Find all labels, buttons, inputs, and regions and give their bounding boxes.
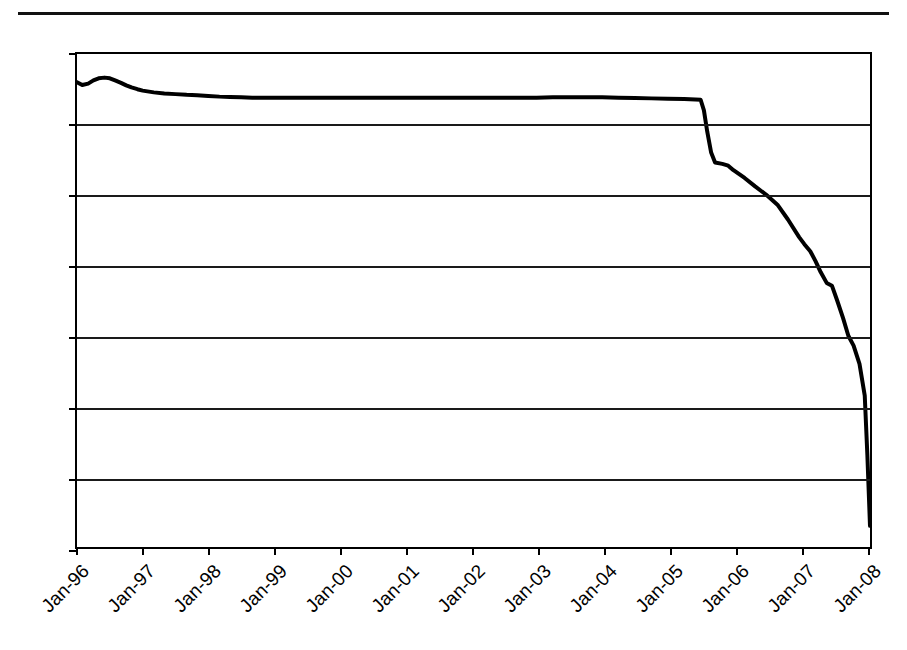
x-axis-tick [604, 547, 606, 555]
x-axis-tick [802, 547, 804, 555]
x-axis-tick [538, 547, 540, 555]
x-axis-tick-label: Jan-96 [25, 561, 92, 628]
gridline-horizontal [77, 337, 870, 339]
y-axis-tick [69, 124, 77, 126]
y-axis-tick [69, 266, 77, 268]
gridline-horizontal [77, 195, 870, 197]
y-axis-tick [69, 479, 77, 481]
data-series-line [77, 54, 870, 547]
plot-area [75, 52, 872, 549]
x-axis-tick-label: Jan-04 [553, 561, 620, 628]
gridline-horizontal [77, 479, 870, 481]
x-axis-tick [736, 547, 738, 555]
x-axis-tick [142, 547, 144, 555]
gridline-horizontal [77, 124, 870, 126]
series-polyline [77, 78, 870, 526]
y-axis-tick [69, 408, 77, 410]
x-axis-tick-label: Jan-07 [751, 561, 818, 628]
gridline-horizontal [77, 408, 870, 410]
y-axis-tick [69, 53, 77, 55]
x-axis-tick-label: Jan-98 [157, 561, 224, 628]
y-axis-tick [69, 195, 77, 197]
x-axis-tick [406, 547, 408, 555]
x-axis-tick-label: Jan-08 [817, 561, 884, 628]
x-axis-tick [340, 547, 342, 555]
x-axis-tick [76, 547, 78, 555]
x-axis-tick-label: Jan-01 [355, 561, 422, 628]
x-axis-tick [274, 547, 276, 555]
x-axis-tick [868, 547, 870, 555]
x-axis-tick-label: Jan-02 [421, 561, 488, 628]
line-chart-figure: 7.07.27.47.67.88.08.28.4Jan-96Jan-97Jan-… [0, 0, 907, 650]
x-axis-tick-label: Jan-97 [91, 561, 158, 628]
y-axis-tick [69, 337, 77, 339]
x-axis-tick [472, 547, 474, 555]
x-axis-tick-label: Jan-00 [289, 561, 356, 628]
gridline-horizontal [77, 266, 870, 268]
x-axis-tick-label: Jan-03 [487, 561, 554, 628]
x-axis-tick [670, 547, 672, 555]
x-axis-tick-label: Jan-05 [619, 561, 686, 628]
x-axis-tick-label: Jan-99 [223, 561, 290, 628]
x-axis-tick [208, 547, 210, 555]
x-axis-tick-label: Jan-06 [685, 561, 752, 628]
